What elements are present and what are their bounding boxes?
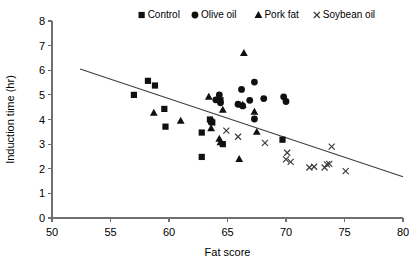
- legend-marker-square: [139, 12, 145, 18]
- data-point-triangle: [251, 108, 259, 115]
- data-point-circle: [251, 79, 258, 86]
- legend-marker-triangle: [255, 11, 263, 18]
- data-point-square: [279, 137, 285, 143]
- data-point-circle: [217, 99, 224, 106]
- data-point-circle: [260, 95, 267, 102]
- x-axis-tick-label: 50: [46, 226, 58, 238]
- x-axis-tick-label: 80: [397, 226, 409, 238]
- y-axis-tick-label: 1: [39, 187, 45, 199]
- data-point-triangle: [205, 93, 213, 100]
- y-axis-tick-label: 8: [39, 15, 45, 27]
- data-point-triangle: [150, 109, 158, 116]
- data-point-square: [209, 119, 215, 125]
- data-point-circle: [283, 98, 290, 105]
- data-point-triangle: [219, 106, 227, 113]
- x-axis-tick-label: 60: [163, 226, 175, 238]
- chart-svg: 01234567850556065707580Fat scoreInductio…: [0, 0, 417, 266]
- data-point-triangle: [240, 49, 248, 56]
- y-axis-title: Induction time (hr): [4, 75, 16, 164]
- legend-label: Olive oil: [201, 9, 237, 20]
- x-axis-tick-label: 65: [221, 226, 233, 238]
- data-point-square: [162, 124, 168, 130]
- data-point-triangle: [177, 117, 185, 124]
- data-point-circle: [246, 97, 253, 104]
- x-axis-tick-label: 55: [104, 226, 116, 238]
- data-point-square: [161, 106, 167, 112]
- legend-marker-circle: [192, 12, 199, 19]
- data-point-square: [199, 154, 205, 160]
- data-point-circle: [238, 86, 245, 93]
- y-axis-tick-label: 2: [39, 163, 45, 175]
- y-axis-tick-label: 0: [39, 212, 45, 224]
- data-point-circle: [216, 91, 223, 98]
- y-axis-tick-label: 3: [39, 138, 45, 150]
- data-point-circle: [251, 116, 258, 123]
- legend-label: Pork fat: [264, 9, 299, 20]
- y-axis-tick-label: 7: [39, 40, 45, 52]
- scatter-chart-figure: 01234567850556065707580Fat scoreInductio…: [0, 0, 417, 266]
- data-point-square: [152, 82, 158, 88]
- x-axis-tick-label: 70: [280, 226, 292, 238]
- data-point-square: [131, 92, 137, 98]
- x-axis-title: Fat score: [205, 246, 251, 258]
- data-point-square: [199, 129, 205, 135]
- legend-label: Control: [148, 9, 180, 20]
- legend-label: Soybean oil: [323, 9, 375, 20]
- y-axis-tick-label: 6: [39, 64, 45, 76]
- y-axis-tick-label: 5: [39, 89, 45, 101]
- data-point-square: [145, 78, 151, 84]
- x-axis-tick-label: 75: [338, 226, 350, 238]
- data-point-triangle: [235, 155, 243, 162]
- y-axis-tick-label: 4: [39, 114, 45, 126]
